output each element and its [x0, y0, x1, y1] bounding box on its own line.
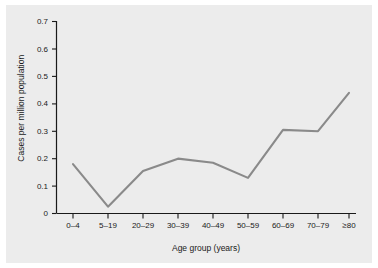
axes [52, 21, 356, 219]
x-tick-label-80-plus: ≥80 [329, 222, 369, 230]
x-tick-label-60-69: 60–69 [263, 222, 303, 230]
data-series-line [73, 93, 349, 207]
y-tick-label-06: 0.6 [22, 46, 48, 54]
x-tick-label-20-29: 20–29 [123, 222, 163, 230]
y-axis-title: Cases per million population [17, 43, 26, 173]
x-tick-label-30-39: 30–39 [158, 222, 198, 230]
figure: 0.7 0.6 0.5 0.4 0.3 0.2 0.1 0 0–4 5–19 2… [0, 0, 378, 268]
x-tick-label-0-4: 0–4 [53, 222, 93, 230]
y-tick-label-07: 0.7 [22, 18, 48, 26]
y-tick-label-05: 0.5 [22, 73, 48, 81]
y-tick-label-0: 0 [22, 210, 48, 218]
y-tick-label-01: 0.1 [22, 183, 48, 191]
x-axis-ticks [73, 214, 349, 219]
x-tick-label-50-59: 50–59 [228, 222, 268, 230]
y-tick-label-03: 0.3 [22, 128, 48, 136]
y-axis-ticks [52, 22, 57, 214]
y-tick-label-04: 0.4 [22, 100, 48, 108]
y-tick-label-02: 0.2 [22, 155, 48, 163]
x-tick-label-40-49: 40–49 [193, 222, 233, 230]
x-axis-title: Age group (years) [56, 244, 356, 253]
x-tick-label-5-19: 5–19 [88, 222, 128, 230]
